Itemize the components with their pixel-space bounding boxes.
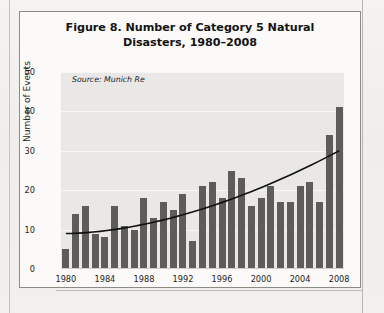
y-tick-label: 40 xyxy=(1,106,35,116)
x-axis-baseline xyxy=(61,268,344,269)
y-tick-label: 30 xyxy=(1,146,35,156)
x-tick-label: 1992 xyxy=(173,274,194,284)
figure-container: Figure 8. Number of Category 5 Natural D… xyxy=(19,11,361,288)
x-tick-label: 1980 xyxy=(55,274,76,284)
x-tick-label: 2000 xyxy=(251,274,272,284)
x-tick-label: 1988 xyxy=(134,274,155,284)
x-tick-label: 2004 xyxy=(290,274,311,284)
y-tick-label: 10 xyxy=(1,225,35,235)
page-column-rule xyxy=(362,0,363,313)
y-tick-label: 50 xyxy=(1,67,35,77)
source-note: Source: Munich Re xyxy=(72,75,145,84)
trend-line-path xyxy=(66,151,339,234)
x-tick-label: 1996 xyxy=(212,274,233,284)
plot-region xyxy=(61,72,344,269)
trend-line xyxy=(61,72,344,269)
x-tick-label: 2008 xyxy=(329,274,350,284)
y-tick-label: 20 xyxy=(1,185,35,195)
x-tick-label: 1984 xyxy=(94,274,115,284)
page-horizontal-rule xyxy=(56,290,362,291)
figure-title: Figure 8. Number of Category 5 Natural D… xyxy=(38,21,342,50)
chart-area: Number of Events 01020304050 19801984198… xyxy=(20,64,362,288)
y-tick-label: 0 xyxy=(1,264,35,274)
